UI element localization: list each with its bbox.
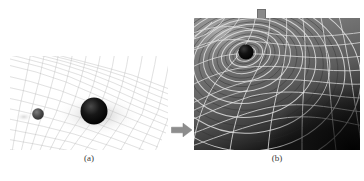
panel-a-caption: (a) xyxy=(10,152,168,164)
figure-container: (a) xyxy=(0,0,364,181)
black-hole-sphere-b xyxy=(238,44,253,59)
panel-b-caption: (b) xyxy=(194,152,360,164)
flat-spacetime-mesh xyxy=(10,56,168,150)
panel-b: 引力波 xyxy=(194,18,360,150)
large-sphere-a xyxy=(81,98,108,125)
warped-spacetime-photo xyxy=(194,18,360,150)
small-sphere-a xyxy=(32,108,44,120)
panel-a xyxy=(10,56,168,150)
right-arrow-icon xyxy=(171,122,193,138)
